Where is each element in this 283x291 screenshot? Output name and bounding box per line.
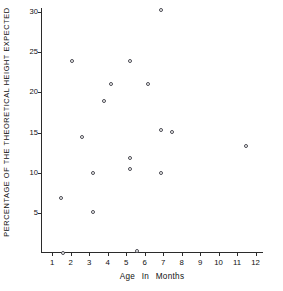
data-point xyxy=(91,171,95,175)
y-tick-mark xyxy=(38,213,42,214)
data-point xyxy=(159,128,163,132)
x-tick-mark-2 xyxy=(71,252,72,256)
x-tick-label: 1 xyxy=(44,258,60,268)
data-point xyxy=(128,59,132,63)
x-tick-mark-9 xyxy=(200,252,201,256)
x-tick-mark-3 xyxy=(89,252,90,256)
y-tick-label: 30 xyxy=(30,7,38,16)
x-tick-mark-6 xyxy=(145,252,146,256)
data-point xyxy=(70,59,74,63)
x-tick-label: 8 xyxy=(174,258,190,268)
data-point xyxy=(170,130,174,134)
x-tick-mark-12 xyxy=(256,252,257,256)
x-tick-mark-10 xyxy=(219,252,220,256)
y-axis-line xyxy=(41,8,42,253)
x-axis-line xyxy=(41,252,263,253)
plot-area: 51015202530 123456789101112 xyxy=(41,8,263,253)
y-tick-mark xyxy=(38,52,42,53)
x-tick-label: 5 xyxy=(118,258,134,268)
x-axis-title: Age In Months xyxy=(41,272,263,281)
x-tick-mark-5 xyxy=(126,252,127,256)
y-tick-label: 15 xyxy=(30,128,38,137)
data-point xyxy=(128,167,132,171)
x-tick-mark-1 xyxy=(52,252,53,256)
x-tick-label: 6 xyxy=(137,258,153,268)
x-tick-label: 9 xyxy=(192,258,208,268)
y-axis-title: PERCENTAGE OF THE THEORETICAL HEIGHT EXP… xyxy=(0,6,14,238)
y-tick-mark xyxy=(38,12,42,13)
data-point xyxy=(159,8,163,12)
x-tick-label: 7 xyxy=(155,258,171,268)
x-tick-label: 4 xyxy=(100,258,116,268)
y-tick-label: 10 xyxy=(30,168,38,177)
x-tick-mark-8 xyxy=(182,252,183,256)
x-tick-label: 11 xyxy=(229,258,245,268)
data-point xyxy=(61,251,65,255)
data-point xyxy=(80,135,84,139)
data-point xyxy=(102,99,106,103)
y-tick-label: 5 xyxy=(34,208,38,217)
y-tick-mark xyxy=(38,173,42,174)
x-tick-label: 10 xyxy=(211,258,227,268)
x-tick-label: 2 xyxy=(63,258,79,268)
scatter-plot-figure: PERCENTAGE OF THE THEORETICAL HEIGHT EXP… xyxy=(0,0,283,291)
x-tick-label: 12 xyxy=(248,258,264,268)
y-tick-mark xyxy=(38,133,42,134)
data-point xyxy=(109,82,113,86)
data-point xyxy=(59,196,63,200)
data-point xyxy=(159,171,163,175)
data-point xyxy=(146,82,150,86)
y-tick-label: 20 xyxy=(30,87,38,96)
y-tick-label: 25 xyxy=(30,47,38,56)
data-point xyxy=(91,210,95,214)
x-tick-mark-7 xyxy=(163,252,164,256)
x-tick-mark-11 xyxy=(237,252,238,256)
x-tick-mark-4 xyxy=(108,252,109,256)
data-point xyxy=(244,144,248,148)
data-point xyxy=(128,156,132,160)
y-tick-mark xyxy=(38,92,42,93)
x-tick-label: 3 xyxy=(81,258,97,268)
